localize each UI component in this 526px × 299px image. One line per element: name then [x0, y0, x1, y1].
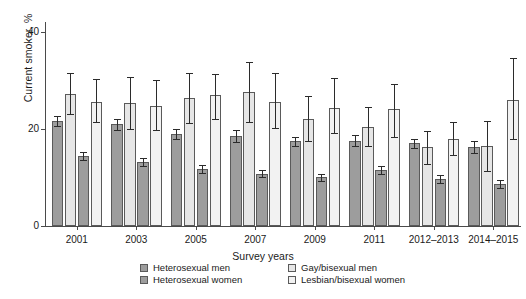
- bar-7-0: [468, 147, 480, 226]
- bar-4-0: [290, 141, 302, 226]
- error-bar-cap-upper: [484, 121, 491, 122]
- error-bar-line: [513, 58, 514, 139]
- error-bar-line: [440, 175, 441, 183]
- error-bar-line: [215, 74, 216, 119]
- bar-0-2: [78, 156, 90, 226]
- bar-1-0: [111, 124, 123, 226]
- error-bar-cap-lower: [80, 160, 87, 161]
- x-tick-mark: [374, 226, 375, 230]
- x-tick-mark: [434, 226, 435, 230]
- error-bar-cap-upper: [437, 175, 444, 176]
- error-bar-line: [334, 78, 335, 132]
- error-bar-cap-upper: [186, 73, 193, 74]
- bar-2-0: [171, 134, 183, 226]
- error-bar-line: [427, 131, 428, 164]
- error-bar-line: [143, 158, 144, 166]
- error-bar-cap-lower: [378, 174, 385, 175]
- error-bar-cap-upper: [233, 130, 240, 131]
- error-bar-line: [117, 119, 118, 131]
- error-bar-line: [189, 73, 190, 123]
- x-tick-mark: [255, 226, 256, 230]
- error-bar-line: [96, 79, 97, 122]
- y-axis-line: [45, 22, 46, 226]
- legend-row: Heterosexual women Lesbian/bisexual wome…: [140, 275, 430, 285]
- y-tick-mark: [41, 226, 45, 227]
- y-tick-mark: [41, 129, 45, 130]
- bar-6-2: [435, 179, 447, 226]
- error-bar-cap-lower: [127, 129, 134, 130]
- error-bar-cap-upper: [292, 137, 299, 138]
- error-bar-cap-lower: [54, 126, 61, 127]
- error-bar-cap-upper: [424, 131, 431, 132]
- bar-0-0: [52, 121, 64, 226]
- bar-3-2: [256, 174, 268, 226]
- error-bar-line: [57, 116, 58, 126]
- error-bar-cap-upper: [331, 78, 338, 79]
- error-bar-cap-upper: [212, 74, 219, 75]
- error-bar-cap-upper: [259, 170, 266, 171]
- error-bar-cap-lower: [173, 139, 180, 140]
- error-bar-line: [453, 122, 454, 155]
- error-bar-cap-lower: [93, 122, 100, 123]
- error-bar-cap-upper: [67, 73, 74, 74]
- error-bar-line: [295, 137, 296, 147]
- legend-item-heterosexual-women: Heterosexual women: [140, 275, 288, 285]
- error-bar-line: [236, 130, 237, 142]
- error-bar-cap-lower: [114, 130, 121, 131]
- error-bar-line: [394, 84, 395, 137]
- x-tick-mark: [136, 226, 137, 230]
- x-tick-mark: [493, 226, 494, 230]
- error-bar-line: [83, 152, 84, 160]
- bar-5-2: [375, 170, 387, 226]
- y-tick-label: 0: [13, 221, 39, 231]
- error-bar-cap-upper: [411, 139, 418, 140]
- error-bar-cap-lower: [484, 171, 491, 172]
- error-bar-line: [321, 174, 322, 182]
- error-bar-cap-lower: [186, 123, 193, 124]
- x-tick-mark: [196, 226, 197, 230]
- error-bar-cap-lower: [411, 148, 418, 149]
- error-bar-cap-lower: [391, 137, 398, 138]
- error-bar-cap-upper: [80, 152, 87, 153]
- error-bar-line: [262, 170, 263, 178]
- legend-label: Heterosexual men: [153, 263, 230, 273]
- error-bar-cap-lower: [67, 114, 74, 115]
- legend-item-lesbian-bisexual-women: Lesbian/bisexual women: [288, 275, 405, 285]
- bar-2-2: [197, 169, 209, 226]
- x-axis-title: Survey years: [0, 250, 526, 262]
- plot-area: 02040 2001200320052007200920112012–20132…: [45, 22, 521, 226]
- error-bar-cap-upper: [246, 62, 253, 63]
- error-bar-cap-upper: [153, 80, 160, 81]
- y-tick-mark: [41, 32, 45, 33]
- bar-5-0: [349, 141, 361, 226]
- legend-label: Heterosexual women: [153, 275, 242, 285]
- error-bar-cap-lower: [153, 130, 160, 131]
- error-bar-cap-upper: [391, 84, 398, 85]
- error-bar-cap-lower: [212, 119, 219, 120]
- error-bar-cap-lower: [233, 142, 240, 143]
- error-bar-cap-upper: [114, 119, 121, 120]
- legend-swatch-icon: [288, 264, 296, 272]
- legend-swatch-icon: [140, 276, 148, 284]
- error-bar-cap-lower: [497, 188, 504, 189]
- error-bar-cap-lower: [272, 128, 279, 129]
- legend-item-gay-bisexual-men: Gay/bisexual men: [288, 263, 377, 273]
- error-bar-line: [176, 129, 177, 139]
- chart-figure: Current smoker, % 02040 2001200320052007…: [0, 0, 526, 299]
- error-bar-cap-lower: [471, 153, 478, 154]
- legend-label: Lesbian/bisexual women: [301, 275, 405, 285]
- error-bar-line: [249, 62, 250, 122]
- error-bar-cap-upper: [450, 122, 457, 123]
- legend-label: Gay/bisexual men: [301, 263, 377, 273]
- bar-7-2: [494, 184, 506, 226]
- error-bar-cap-upper: [497, 180, 504, 181]
- error-bar-cap-lower: [365, 146, 372, 147]
- error-bar-line: [414, 139, 415, 149]
- error-bar-cap-upper: [510, 58, 517, 59]
- error-bar-cap-upper: [318, 174, 325, 175]
- y-tick-label: 20: [13, 124, 39, 134]
- error-bar-cap-lower: [259, 177, 266, 178]
- error-bar-line: [156, 80, 157, 130]
- y-tick-label: 40: [13, 27, 39, 37]
- error-bar-cap-lower: [331, 133, 338, 134]
